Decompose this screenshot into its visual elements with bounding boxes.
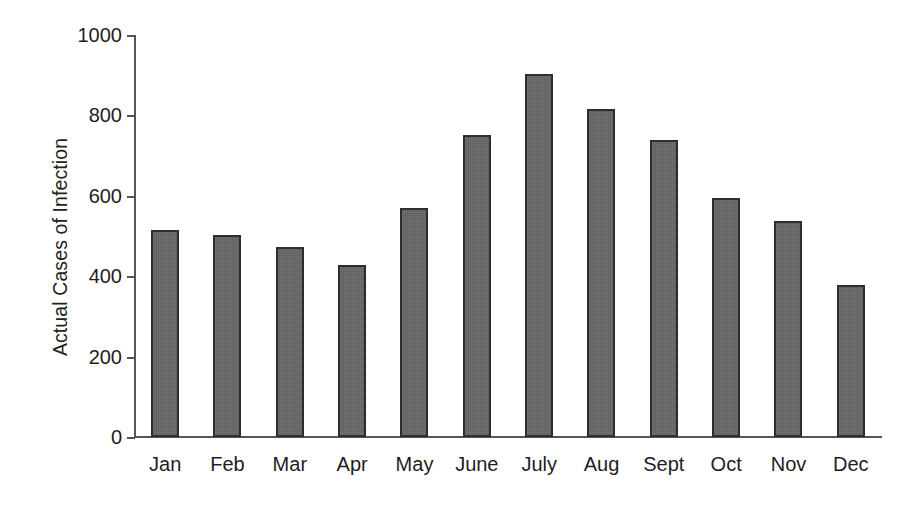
x-label-sept: Sept xyxy=(633,452,695,476)
bars-container xyxy=(134,35,882,437)
bar-slot xyxy=(695,35,757,437)
x-label-jan: Jan xyxy=(134,452,196,476)
y-tick-label: 400 xyxy=(62,266,122,286)
bar-chart: Actual Cases of Infection 02004006008001… xyxy=(0,0,918,509)
bar-slot xyxy=(633,35,695,437)
bar-may xyxy=(400,208,428,437)
x-label-oct: Oct xyxy=(695,452,757,476)
bar-jan xyxy=(151,230,179,437)
x-label-nov: Nov xyxy=(757,452,819,476)
bar-slot xyxy=(570,35,632,437)
x-label-mar: Mar xyxy=(259,452,321,476)
y-tick-600: 600 xyxy=(0,196,122,197)
bar-slot xyxy=(508,35,570,437)
x-label-july: July xyxy=(508,452,570,476)
bar-sept xyxy=(650,140,678,437)
x-axis-labels: JanFebMarAprMayJuneJulyAugSeptOctNovDec xyxy=(134,452,882,486)
bar-aug xyxy=(587,109,615,437)
bar-slot xyxy=(134,35,196,437)
y-axis-title: Actual Cases of Infection xyxy=(35,27,85,467)
bar-nov xyxy=(774,221,802,437)
bar-apr xyxy=(338,265,366,437)
bar-feb xyxy=(213,235,241,437)
bar-july xyxy=(525,74,553,437)
bar-slot xyxy=(321,35,383,437)
x-label-june: June xyxy=(446,452,508,476)
y-tick-0: 0 xyxy=(0,437,122,438)
bar-slot xyxy=(259,35,321,437)
x-label-aug: Aug xyxy=(570,452,632,476)
bar-slot xyxy=(757,35,819,437)
y-tick-label: 1000 xyxy=(62,25,122,45)
y-tick-200: 200 xyxy=(0,357,122,358)
x-label-apr: Apr xyxy=(321,452,383,476)
x-label-dec: Dec xyxy=(820,452,882,476)
y-tick-1000: 1000 xyxy=(0,35,122,36)
bar-mar xyxy=(276,247,304,437)
bar-slot xyxy=(446,35,508,437)
bar-slot xyxy=(196,35,258,437)
bar-oct xyxy=(712,198,740,437)
y-tick-label: 800 xyxy=(62,105,122,125)
y-tick-mark xyxy=(127,437,135,439)
y-tick-800: 800 xyxy=(0,115,122,116)
bar-slot xyxy=(820,35,882,437)
y-tick-label: 200 xyxy=(62,347,122,367)
bar-slot xyxy=(383,35,445,437)
bar-dec xyxy=(837,285,865,437)
x-label-may: May xyxy=(383,452,445,476)
y-tick-label: 0 xyxy=(62,427,122,447)
bar-june xyxy=(463,135,491,437)
x-label-feb: Feb xyxy=(196,452,258,476)
y-tick-label: 600 xyxy=(62,186,122,206)
y-tick-400: 400 xyxy=(0,276,122,277)
